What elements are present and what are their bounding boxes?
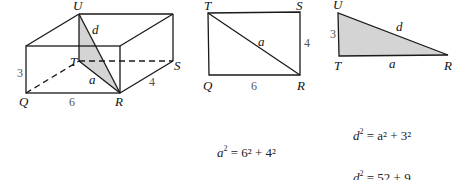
label-d: d [92,22,99,37]
rect-label-4: 4 [304,36,310,50]
tri-label-r: R [443,58,452,73]
equations-a: a2 = 6² + 4² a2 = 36 + 16 a2 = 52 [217,118,281,180]
tri-label-t: T [334,58,342,73]
label-u: U [73,0,84,13]
label-width: 4 [149,75,155,89]
equation-line: d2 = a² + 3² [353,129,411,143]
rect-label-t: T [204,0,212,13]
base-rectangle [208,12,300,75]
label-a: a [89,72,96,87]
rect-label-a: a [258,34,265,49]
label-r: R [114,94,123,109]
rect-label-q: Q [203,78,213,93]
tri-label-3: 3 [330,27,336,41]
label-height: 3 [17,66,23,80]
label-s: S [174,58,181,73]
tri-label-u: U [333,0,344,12]
rect-label-r: R [296,78,305,93]
label-t: T [70,54,78,69]
label-q: Q [19,94,29,109]
tri-label-d: d [396,19,403,34]
tri-label-a: a [389,56,396,71]
label-length: 6 [69,95,75,109]
rect-label-6: 6 [251,79,257,93]
rect-label-s: S [296,0,303,13]
right-triangle-utr [338,13,448,56]
equation-line: a2 = 6² + 4² [217,146,281,160]
equation-line: d2 = 52 + 9 [353,171,411,180]
equations-d: d2 = a² + 3² d2 = 52 + 9 d2 = 61 d = √61 [353,101,411,180]
